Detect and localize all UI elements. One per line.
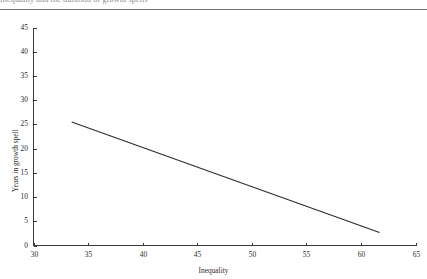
x-tick-label-40: 40 [133, 251, 155, 259]
y-tick-label-10: 10 [12, 193, 28, 201]
x-tick-label-35: 35 [78, 251, 100, 259]
x-tick-label-45: 45 [187, 251, 209, 259]
x-tick-label-55: 55 [296, 251, 318, 259]
x-tick-label-65: 65 [406, 251, 427, 259]
x-tick-label-60: 60 [351, 251, 373, 259]
y-tick-label-5: 5 [12, 217, 28, 225]
axes-group [34, 28, 416, 246]
ticks-group [34, 29, 417, 247]
y-tick-label-25: 25 [12, 120, 28, 128]
y-axis-label: Years in growth spell [11, 129, 20, 192]
x-tick-label-50: 50 [242, 251, 264, 259]
page-title: Inequality and the duration of growth sp… [0, 0, 427, 5]
chart-svg [0, 12, 427, 279]
chart-plot-area: 051015202530354045 3035404550556065 Year… [0, 12, 427, 279]
header-divider [0, 9, 427, 10]
series-line-fitted [72, 122, 380, 232]
y-tick-label-35: 35 [12, 72, 28, 80]
x-tick-label-30: 30 [24, 251, 46, 259]
y-tick-label-0: 0 [12, 242, 28, 250]
y-tick-label-45: 45 [12, 24, 28, 32]
x-axis-label: Inequality [0, 266, 427, 275]
y-tick-label-40: 40 [12, 48, 28, 56]
y-tick-label-30: 30 [12, 96, 28, 104]
